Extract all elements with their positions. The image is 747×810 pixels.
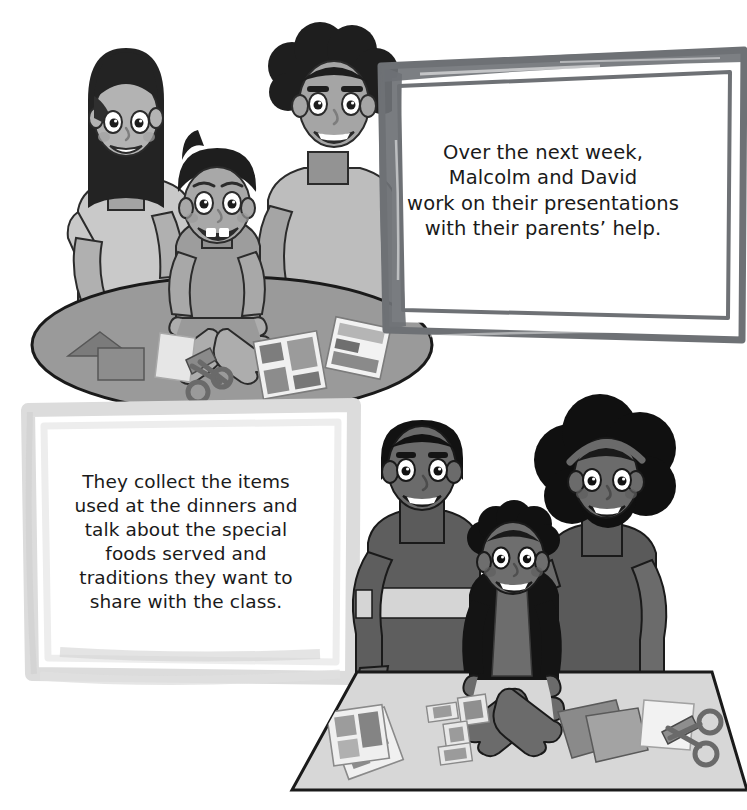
item-folded-paper	[558, 700, 648, 762]
storybook-page: Over the next week, Malcolm and David wo…	[0, 0, 747, 810]
item-photo-card-3	[326, 705, 389, 766]
bottom-scene-illustration	[0, 0, 747, 810]
